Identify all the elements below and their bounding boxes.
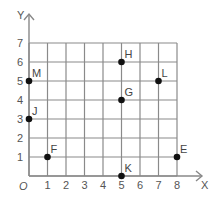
x-tick-label: 4 bbox=[100, 179, 106, 191]
x-tick-label: 7 bbox=[155, 179, 161, 191]
x-tick-label: 1 bbox=[44, 179, 50, 191]
x-axis-label: X bbox=[201, 179, 209, 191]
y-tick-label: 5 bbox=[17, 75, 23, 87]
point-k-label: K bbox=[125, 162, 133, 174]
point-h-label: H bbox=[125, 48, 133, 60]
point-e-label: E bbox=[180, 143, 187, 155]
x-tick-label: 8 bbox=[174, 179, 180, 191]
x-tick-label: 5 bbox=[118, 179, 124, 191]
coordinate-grid: XYO123456781234567HMLGJFEK bbox=[0, 0, 221, 198]
x-tick-label: 3 bbox=[81, 179, 87, 191]
y-tick-label: 6 bbox=[17, 56, 23, 68]
point-j-label: J bbox=[32, 105, 38, 117]
point-g-label: G bbox=[125, 86, 134, 98]
point-l-label: L bbox=[162, 67, 168, 79]
y-tick-label: 1 bbox=[17, 151, 23, 163]
y-tick-label: 4 bbox=[17, 94, 23, 106]
point-f-label: F bbox=[51, 143, 58, 155]
point-m-label: M bbox=[32, 67, 41, 79]
y-tick-label: 2 bbox=[17, 132, 23, 144]
x-tick-label: 6 bbox=[137, 179, 143, 191]
y-tick-label: 3 bbox=[17, 113, 23, 125]
x-tick-label: 2 bbox=[63, 179, 69, 191]
y-tick-label: 7 bbox=[17, 37, 23, 49]
origin-label: O bbox=[19, 180, 28, 192]
y-axis-label: Y bbox=[17, 9, 25, 21]
